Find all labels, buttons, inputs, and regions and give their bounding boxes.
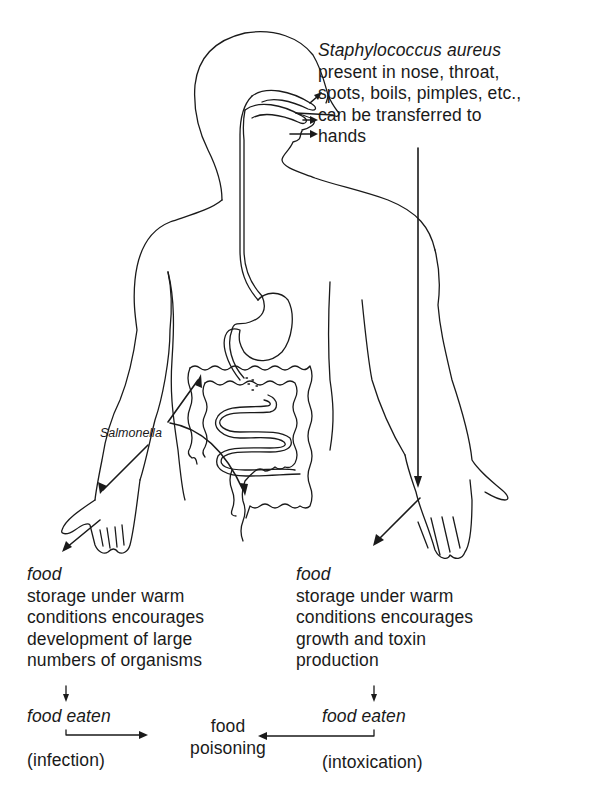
left-line-1: storage under warm <box>27 586 204 608</box>
arrow-hand-to-food-right <box>378 498 420 540</box>
torso-right-side <box>329 282 334 450</box>
arrow-intoxication-to-poisoning <box>266 730 374 736</box>
right-line-4: production <box>296 650 473 672</box>
intoxication-label: (intoxication) <box>322 752 423 774</box>
arrow-infection-to-poisoning <box>66 730 140 735</box>
arrow-salmonella-down <box>103 445 148 490</box>
right-hand <box>405 455 472 558</box>
left-branch-block: food storage under warm conditions encou… <box>27 564 204 672</box>
right-line-3: growth and toxin <box>296 629 473 651</box>
infection-label: (infection) <box>27 750 105 772</box>
left-line-3: development of large <box>27 629 204 651</box>
outcome-line-1: food <box>178 716 278 738</box>
salmonella-label: Salmonella <box>100 426 162 440</box>
left-food-eaten: food eaten <box>27 706 111 728</box>
outcome-line-2: poisoning <box>178 738 278 760</box>
right-branch-block: food storage under warm conditions encou… <box>296 564 473 672</box>
left-food-heading: food <box>27 564 204 586</box>
left-line-4: numbers of organisms <box>27 650 204 672</box>
right-line-1: storage under warm <box>296 586 473 608</box>
right-line-2: conditions encourages <box>296 607 473 629</box>
torso-left-side <box>168 272 185 500</box>
staph-line-1: present in nose, throat, <box>318 62 521 84</box>
staph-organism-name: Staphylococcus aureus <box>318 40 521 62</box>
left-line-2: conditions encourages <box>27 607 204 629</box>
right-inner-arm <box>362 300 405 455</box>
staph-line-2: spots, boils, pimples, etc., <box>318 83 521 105</box>
right-food-eaten: food eaten <box>322 706 406 728</box>
food-poisoning-outcome: food poisoning <box>178 716 278 759</box>
oral-passage <box>245 104 306 123</box>
staph-line-4: hands <box>318 126 521 148</box>
right-shoulder-outline <box>435 250 508 500</box>
right-food-heading: food <box>296 564 473 586</box>
staph-line-3: can be transferred to <box>318 105 521 127</box>
staph-block: Staphylococcus aureus present in nose, t… <box>318 40 521 148</box>
esophagus <box>240 96 258 300</box>
